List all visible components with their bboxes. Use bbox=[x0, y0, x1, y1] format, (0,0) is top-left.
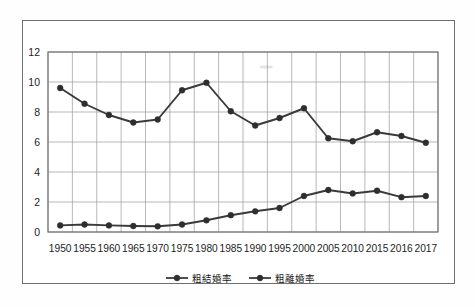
data-point bbox=[399, 194, 405, 200]
data-point bbox=[350, 138, 356, 144]
chart-figure-frame: 024681012 195019551960196519701975198019… bbox=[22, 20, 455, 284]
chart-legend: 粗結婚率粗離婚率 bbox=[166, 273, 315, 284]
x-tick-label: 1955 bbox=[73, 243, 96, 254]
x-tick-label: 1975 bbox=[171, 243, 194, 254]
data-point bbox=[252, 123, 258, 129]
data-point bbox=[57, 223, 63, 229]
data-point bbox=[130, 120, 136, 126]
legend-label: 粗離婚率 bbox=[275, 273, 315, 284]
y-tick-label: 6 bbox=[34, 136, 40, 148]
data-point bbox=[204, 217, 210, 223]
x-tick-label: 1965 bbox=[122, 243, 145, 254]
x-tick-label: 2010 bbox=[341, 243, 364, 254]
data-point bbox=[82, 222, 88, 228]
data-point bbox=[423, 140, 429, 146]
legend-item-1[interactable]: 粗結婚率 bbox=[166, 273, 232, 284]
data-point bbox=[277, 115, 283, 121]
x-tick-label: 1985 bbox=[219, 243, 242, 254]
data-point bbox=[399, 133, 405, 139]
line-chart: 024681012 195019551960196519701975198019… bbox=[23, 21, 456, 285]
y-axis-tick-labels: 024681012 bbox=[28, 46, 40, 238]
x-tick-label: 1960 bbox=[98, 243, 121, 254]
legend-label: 粗結婚率 bbox=[192, 273, 232, 284]
data-point bbox=[277, 205, 283, 211]
scan-smudge bbox=[259, 65, 273, 68]
data-point bbox=[179, 222, 185, 228]
x-tick-label: 2005 bbox=[317, 243, 340, 254]
data-point bbox=[423, 193, 429, 199]
data-point bbox=[301, 193, 307, 199]
y-tick-label: 4 bbox=[34, 166, 40, 178]
data-point bbox=[325, 135, 331, 141]
y-tick-label: 8 bbox=[34, 106, 40, 118]
data-point bbox=[155, 223, 161, 229]
x-tick-label: 2015 bbox=[366, 243, 389, 254]
data-point bbox=[204, 80, 210, 86]
x-axis-tick-labels: 1950195519601965197019751980198519901995… bbox=[49, 243, 438, 254]
page-canvas: 024681012 195019551960196519701975198019… bbox=[0, 0, 475, 307]
data-point bbox=[228, 212, 234, 218]
x-tick-label: 2017 bbox=[414, 243, 437, 254]
data-point bbox=[82, 101, 88, 107]
data-point bbox=[325, 187, 331, 193]
data-point bbox=[374, 188, 380, 194]
data-point bbox=[130, 223, 136, 229]
data-point bbox=[106, 223, 112, 229]
y-tick-label: 12 bbox=[28, 46, 40, 58]
data-point bbox=[228, 108, 234, 114]
x-tick-label: 1995 bbox=[268, 243, 291, 254]
legend-marker-icon bbox=[257, 275, 263, 281]
data-point bbox=[155, 117, 161, 123]
x-tick-label: 1950 bbox=[49, 243, 72, 254]
legend-item-2[interactable]: 粗離婚率 bbox=[249, 273, 315, 284]
data-point bbox=[374, 129, 380, 135]
x-tick-label: 2016 bbox=[390, 243, 413, 254]
x-tick-label: 1970 bbox=[146, 243, 169, 254]
data-point bbox=[252, 208, 258, 214]
data-point bbox=[301, 105, 307, 111]
x-tick-label: 2000 bbox=[293, 243, 316, 254]
data-point bbox=[350, 191, 356, 197]
x-tick-label: 1990 bbox=[244, 243, 267, 254]
data-point bbox=[179, 87, 185, 93]
data-point bbox=[106, 112, 112, 118]
legend-marker-icon bbox=[174, 275, 180, 281]
y-tick-label: 0 bbox=[34, 226, 40, 238]
x-tick-label: 1980 bbox=[195, 243, 218, 254]
y-tick-label: 2 bbox=[34, 196, 40, 208]
data-point bbox=[57, 85, 63, 91]
chart-svg: 024681012 195019551960196519701975198019… bbox=[23, 21, 456, 285]
y-tick-label: 10 bbox=[28, 76, 40, 88]
